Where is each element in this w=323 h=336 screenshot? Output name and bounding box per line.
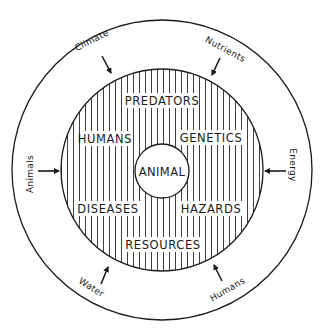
input-energy: Energy (265, 148, 298, 182)
input-label-water: Water (77, 276, 106, 299)
input-climate: Climate (73, 27, 111, 73)
center-label-animal: ANIMAL (139, 165, 186, 179)
factor-label-predators: PREDATORS (125, 94, 200, 108)
input-label-nutrients: Nutrients (203, 35, 247, 65)
arrow-icon (101, 267, 108, 284)
arrow-icon (102, 56, 111, 73)
factor-label-hazards: HAZARDS (181, 202, 242, 216)
factor-label-genetics: GENETICS (180, 131, 243, 145)
arrow-icon (212, 58, 220, 75)
arrow-icon (214, 265, 222, 281)
input-animals: Animals (25, 155, 59, 193)
input-label-energy: Energy (288, 148, 298, 182)
factor-label-diseases: DISEASES (77, 202, 138, 216)
input-label-animals: Animals (25, 155, 35, 193)
input-label-humans: Humans (208, 275, 247, 303)
factor-label-resources: RESOURCES (125, 238, 200, 252)
input-nutrients: Nutrients (203, 35, 247, 75)
input-water: Water (77, 267, 108, 299)
factor-label-humans: HUMANS (78, 132, 132, 146)
animal-environment-diagram: ANIMAL PREDATORS HUMANS GENETICS DISEASE… (0, 0, 323, 336)
input-label-climate: Climate (73, 27, 110, 53)
